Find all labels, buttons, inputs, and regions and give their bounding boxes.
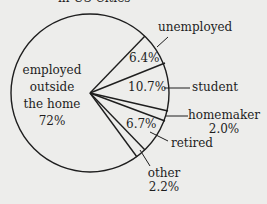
leader-unemployed bbox=[157, 37, 168, 47]
leader-other bbox=[140, 150, 150, 166]
label-employed-line3: the home bbox=[20, 97, 84, 114]
label-retired: retired bbox=[171, 136, 213, 150]
label-employed-line1: employed bbox=[20, 63, 84, 80]
label-homemaker-value: 2.0% bbox=[186, 122, 262, 136]
label-other-value: 2.2% bbox=[146, 180, 182, 194]
label-unemployed-value: 6.4% bbox=[129, 51, 160, 65]
label-student-value: 10.7% bbox=[128, 80, 166, 94]
label-retired-value: 6.7% bbox=[126, 117, 157, 131]
label-employed-line2: outside bbox=[20, 80, 84, 97]
label-other: other 2.2% bbox=[146, 166, 182, 194]
leader-retired bbox=[150, 132, 168, 141]
label-student: student bbox=[192, 80, 238, 94]
label-unemployed: unemployed bbox=[158, 20, 232, 34]
label-homemaker: homemaker 2.0% bbox=[186, 108, 262, 136]
label-homemaker-name: homemaker bbox=[186, 108, 262, 122]
label-employed: employed outside the home 72% bbox=[20, 63, 84, 131]
label-employed-value: 72% bbox=[20, 114, 84, 131]
label-other-name: other bbox=[146, 166, 182, 180]
